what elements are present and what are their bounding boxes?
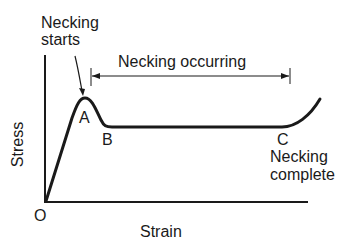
- necking-occurring-left-arrowhead: [92, 73, 100, 79]
- necking-complete-label-line2: complete: [270, 166, 335, 183]
- necking-complete-label-line1: Necking: [270, 148, 328, 165]
- point-b-label: B: [102, 131, 113, 148]
- origin-label: O: [34, 207, 46, 224]
- necking-occurring-right-arrowhead: [281, 73, 289, 79]
- x-axis-label: Strain: [140, 223, 182, 240]
- point-a-label: A: [79, 109, 90, 126]
- necking-starts-arrowhead: [79, 88, 85, 96]
- necking-starts-label-line1: Necking: [41, 14, 99, 31]
- necking-starts-arrow: [75, 56, 82, 91]
- necking-starts-label-line2: starts: [41, 31, 80, 48]
- necking-occurring-label: Necking occurring: [118, 53, 246, 70]
- point-c-label: C: [277, 131, 289, 148]
- y-axis-label: Stress: [9, 122, 26, 167]
